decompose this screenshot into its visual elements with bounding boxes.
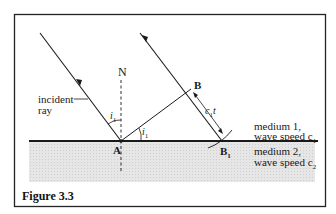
incident-ray [40, 33, 121, 141]
arrowhead-icon [142, 35, 148, 42]
point-A-marker [119, 139, 123, 143]
angle-i1-left-label: i1 [110, 110, 116, 126]
wavefront-AB [121, 89, 191, 141]
normal-label: N [118, 67, 127, 78]
point-B1-label: B1 [220, 146, 231, 162]
point-B-label: B [194, 80, 201, 91]
angle-arc-right [139, 128, 141, 141]
figure-3-3: N incident ray i1 i1 A B c1t B1 medium 1… [0, 0, 336, 214]
arrowhead-icon [218, 128, 223, 134]
medium-2-label-line2: wave speed c2 [254, 157, 316, 173]
angle-i1-right-label: i1 [142, 126, 148, 142]
second-ray [140, 33, 222, 141]
c1t-label: c1t [205, 105, 216, 121]
incident-ray-label-line2: ray [38, 105, 52, 116]
point-A-label: A [113, 145, 121, 156]
figure-caption: Figure 3.3 [22, 189, 74, 204]
